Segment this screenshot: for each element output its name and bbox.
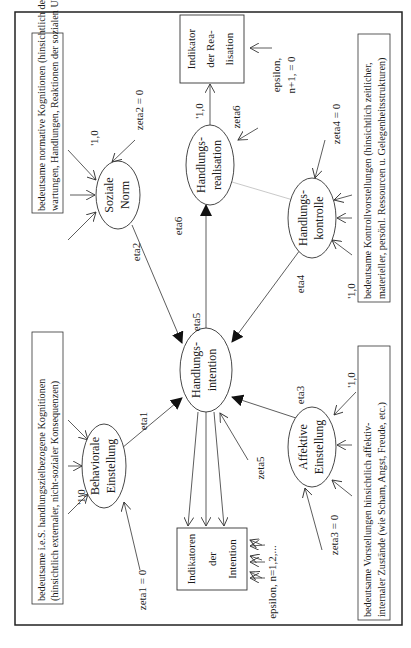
eta-behaviorale: eta1 bbox=[137, 412, 149, 430]
annotation-affective-line2: internaler Zustände (wie Scham, Angst, F… bbox=[376, 402, 388, 617]
annotation-box-behavioral: bedeutsame i.e.S. handlungszielbezogene … bbox=[32, 332, 63, 604]
loading-realisation: '1,0 bbox=[193, 103, 205, 119]
soziale-norm-line1: Soziale bbox=[102, 177, 116, 212]
intention-line1: Handlungs- bbox=[189, 342, 203, 398]
indicator-intention-line1: Indikatoren bbox=[185, 533, 197, 584]
annotation-affective-line1: bedeutsame Vorstellungen hinsichtlich af… bbox=[362, 422, 373, 617]
latent-affektive-einstellung: Affektive Einstellung bbox=[288, 407, 336, 487]
latent-handlungskontrolle: Handlungs- kontrolle bbox=[288, 178, 336, 258]
indicator-realisation-line1: Indikator bbox=[185, 29, 197, 70]
zeta-behaviorale: zeta1 = 0 bbox=[136, 569, 148, 610]
epsilon-intention: epsilon, n=1,2,... bbox=[266, 545, 278, 619]
zeta-soziale-norm: zeta2 = 0 bbox=[133, 89, 145, 130]
realisation-line1: Handlungs- bbox=[194, 137, 208, 193]
eta-affektive: eta3 bbox=[294, 385, 306, 404]
eta-realisation: eta6 bbox=[172, 216, 184, 235]
kontrolle-line2: kontrolle bbox=[312, 196, 326, 239]
behaviorale-line2: Einstellung bbox=[104, 439, 118, 494]
latent-behaviorale-einstellung: Behaviorale Einstellung bbox=[82, 424, 126, 508]
annotation-behavioral-line1: bedeutsame i.e.S. handlungszielbezogene … bbox=[36, 379, 47, 601]
indicator-realisation-line2: der Rea- bbox=[204, 30, 216, 68]
intention-line2: intention bbox=[205, 349, 219, 392]
zeta-kontrolle: zeta4 = 0 bbox=[330, 103, 342, 144]
annotation-social-line1: bedeutsame normative Kognitionen (hinsic… bbox=[36, 0, 48, 211]
annotation-behavioral-line2: (hinsichtlich externaler, nicht-sozialer… bbox=[49, 381, 61, 601]
epsilon-realisation-line1: epsilon, bbox=[270, 57, 282, 92]
latent-handlungsintention: Handlungs- intention bbox=[180, 328, 232, 412]
annotation-box-social: bedeutsame normative Kognitionen (hinsic… bbox=[32, 0, 63, 213]
eta-intention: eta5 bbox=[190, 312, 202, 331]
affektive-line2: Einstellung bbox=[312, 420, 326, 475]
kontrolle-line1: Handlungs- bbox=[296, 190, 310, 246]
annotation-box-control: bedeutsame Kontrollvorstellungen (hinsic… bbox=[358, 34, 390, 302]
realisation-line2: realisation bbox=[210, 140, 224, 190]
indicator-intention-line2: der bbox=[206, 552, 218, 566]
affektive-line1: Affektive bbox=[296, 424, 310, 470]
zeta-realisation: zeta6 bbox=[230, 105, 242, 129]
epsilon-realisation-line2: n+1, = 0 bbox=[285, 56, 297, 94]
latent-soziale-norm: Soziale Norm bbox=[96, 161, 140, 229]
zeta-affektive: zeta3 = 0 bbox=[328, 514, 340, 555]
eta-soziale-norm: eta2 bbox=[130, 243, 142, 261]
soziale-norm-line2: Norm bbox=[118, 180, 132, 209]
annotation-box-affective: bedeutsame Vorstellungen hinsichtlich af… bbox=[358, 346, 390, 620]
loading-kontrolle: '1,0 bbox=[345, 283, 357, 299]
annotation-control-line2: materieller, persönl. Ressourcen u. Gele… bbox=[376, 58, 388, 299]
annotation-control-line1: bedeutsame Kontrollvorstellungen (hinsic… bbox=[362, 62, 374, 299]
loading-behaviorale: '1,0 bbox=[75, 489, 87, 505]
structural-equation-model-diagram: bedeutsame normative Kognitionen (hinsic… bbox=[0, 0, 411, 648]
eta-kontrolle: eta4 bbox=[294, 274, 306, 293]
indicator-intention-box: Indikatoren der Intention bbox=[177, 528, 247, 590]
indicator-realisation-line3: lisation bbox=[223, 32, 235, 65]
behaviorale-line1: Behaviorale bbox=[88, 437, 102, 495]
indicator-realisation-box: Indikator der Rea- lisation bbox=[180, 15, 244, 83]
annotation-social-line2: wartungen, Handlungen, Reaktionen der so… bbox=[49, 0, 61, 211]
latent-handlungsrealisation: Handlungs- realisation bbox=[186, 125, 234, 205]
indicator-intention-line3: Intention bbox=[226, 539, 238, 579]
loading-affektive: '1,0 bbox=[345, 372, 357, 388]
loading-soziale-norm: '1,0 bbox=[88, 130, 100, 146]
zeta-intention: zeta5 bbox=[254, 456, 266, 480]
